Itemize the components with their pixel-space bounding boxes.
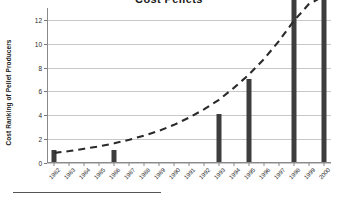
x-axis-tick-mark: [99, 163, 100, 166]
x-axis-tick-mark: [323, 163, 324, 166]
x-axis-tick-label: 1990: [168, 167, 181, 180]
bar: [246, 79, 251, 162]
gridline: [47, 91, 331, 92]
x-axis-tick-mark: [233, 163, 234, 166]
x-axis-tick-mark: [84, 163, 85, 166]
x-axis-tick-label: 1987: [123, 167, 136, 180]
gridline: [47, 44, 331, 45]
x-axis-tick-label: 1989: [153, 167, 166, 180]
y-axis-tick-label: 8: [38, 64, 42, 71]
x-axis-tick-mark: [69, 163, 70, 166]
x-axis-tick-mark: [278, 163, 279, 166]
x-axis-tick-label: 1984: [78, 167, 91, 180]
x-axis-tick-label: 1995: [243, 167, 256, 180]
y-axis-tick-label: 6: [38, 88, 42, 95]
chart-title: Cost Pellets: [0, 0, 338, 5]
x-axis-tick-mark: [114, 163, 115, 166]
x-axis-tick-mark: [159, 163, 160, 166]
gridline: [47, 115, 331, 116]
y-axis-line: [47, 8, 48, 163]
x-axis-tick-label: 1993: [213, 167, 226, 180]
x-axis-tick-label: 1997: [273, 167, 286, 180]
x-axis-tick-label: 1998: [287, 167, 300, 180]
y-axis-tick-label: 0: [38, 160, 42, 167]
x-axis-tick-mark: [308, 163, 309, 166]
x-axis-tick-mark: [293, 163, 294, 166]
y-axis-tick-mark: [44, 163, 47, 164]
y-axis-title-label: Cost Ranking of Pellet Producers: [5, 39, 12, 145]
x-axis-tick-label: 1999: [302, 167, 315, 180]
x-axis-tick-label: 1992: [198, 167, 211, 180]
y-axis-tick-label: 4: [38, 112, 42, 119]
x-axis-tick-mark: [248, 163, 249, 166]
bar: [216, 114, 221, 162]
bar: [321, 0, 326, 162]
y-axis-tick-label: 10: [35, 40, 42, 47]
footer-divider: [13, 192, 161, 193]
x-axis-tick-label: 1985: [93, 167, 106, 180]
x-axis-tick-label: 1986: [108, 167, 121, 180]
y-axis-tick-label: 12: [35, 16, 42, 23]
x-axis-tick-mark: [203, 163, 204, 166]
x-axis-tick-mark: [144, 163, 145, 166]
x-axis-tick-mark: [129, 163, 130, 166]
bar: [52, 150, 57, 162]
x-axis-tick-label: 1996: [258, 167, 271, 180]
gridline: [47, 20, 331, 21]
x-axis-tick-label: 1994: [228, 167, 241, 180]
x-axis-tick-label: 1982: [48, 167, 61, 180]
x-axis-tick-label: 1983: [63, 167, 76, 180]
x-axis-tick-label: 1988: [138, 167, 151, 180]
y-axis-tick-label: 2: [38, 136, 42, 143]
gridline: [47, 139, 331, 140]
bar: [112, 150, 117, 162]
x-axis-tick-mark: [263, 163, 264, 166]
x-axis-tick-label: 1991: [183, 167, 196, 180]
chart-container: Cost Pellets Cost Ranking of Pellet Prod…: [0, 0, 338, 200]
plot-area: 024681012 198219831984198519861987198819…: [47, 8, 331, 163]
x-axis-tick-mark: [174, 163, 175, 166]
bar: [291, 0, 296, 162]
y-axis-title: Cost Ranking of Pellet Producers: [1, 22, 15, 162]
x-axis-tick-mark: [54, 163, 55, 166]
x-axis-tick-mark: [218, 163, 219, 166]
x-axis-tick-mark: [189, 163, 190, 166]
x-axis-tick-label: 2000: [317, 167, 330, 180]
gridline: [47, 68, 331, 69]
